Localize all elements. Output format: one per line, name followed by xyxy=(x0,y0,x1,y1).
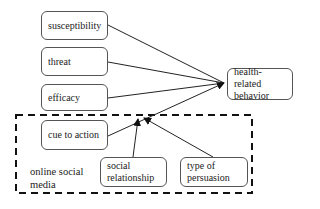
node-label-line2: behavior xyxy=(234,90,269,102)
node-threat: threat xyxy=(41,47,108,76)
node-label: cue to action xyxy=(48,129,99,141)
node-label: susceptibility xyxy=(48,20,101,32)
node-label: efficacy xyxy=(48,92,80,104)
node-label-line1: health-related xyxy=(234,66,286,90)
node-efficacy: efficacy xyxy=(41,84,108,111)
node-susceptibility: susceptibility xyxy=(41,11,108,40)
node-health-related-behavior: health-related behavior xyxy=(227,68,293,100)
node-cue-to-action: cue to action xyxy=(41,120,108,150)
node-label-line2: persuasion xyxy=(187,172,230,184)
edge-type-of-persuasion xyxy=(144,118,213,157)
node-social-relationship: social relationship xyxy=(100,157,167,187)
group-label-line1: online social xyxy=(30,165,83,178)
node-label-line1: type of xyxy=(187,160,215,172)
group-label: online social media xyxy=(30,165,83,191)
node-label-line1: social xyxy=(107,160,130,172)
edge-susceptibility xyxy=(108,25,224,83)
node-label-line2: relationship xyxy=(107,172,154,184)
node-label: threat xyxy=(48,56,71,68)
group-label-line2: media xyxy=(30,178,83,191)
edge-threat xyxy=(108,62,224,83)
node-type-of-persuasion: type of persuasion xyxy=(180,157,248,187)
